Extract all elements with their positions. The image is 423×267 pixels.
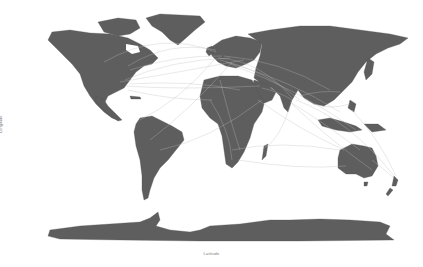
land-greenland xyxy=(146,14,205,45)
land-europe xyxy=(210,36,262,68)
land-antarctica xyxy=(48,212,394,241)
land-africa xyxy=(200,76,264,168)
land-south-america xyxy=(134,116,184,200)
x-axis-label: Latitude xyxy=(0,251,423,256)
land-arctic-islands xyxy=(98,18,140,36)
land-indonesia xyxy=(318,118,362,132)
land-tasmania xyxy=(364,182,368,186)
land-new-zealand-south xyxy=(386,188,393,196)
land-central-america xyxy=(96,96,122,121)
land-caribbean xyxy=(130,96,141,99)
y-axis-label: Longitude xyxy=(0,115,3,133)
land-new-zealand xyxy=(392,176,398,186)
world-map xyxy=(0,0,423,267)
